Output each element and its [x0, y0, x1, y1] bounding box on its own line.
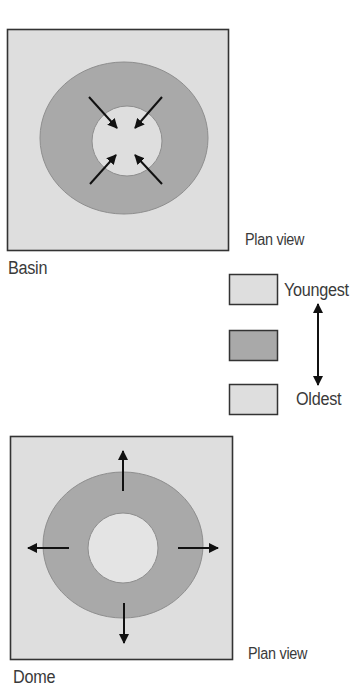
dome-core-oldest	[88, 513, 158, 583]
geologic-structure-diagram	[0, 0, 364, 692]
legend-swatch-middle	[230, 331, 278, 361]
dome-title: Dome	[13, 668, 55, 686]
legend-youngest-label: Youngest	[284, 281, 349, 299]
basin-plan-view	[8, 30, 229, 251]
basin-core-youngest	[92, 106, 162, 176]
basin-title: Basin	[8, 259, 47, 277]
dome-plan-view	[11, 437, 233, 660]
basin-plan-view-label: Plan view	[245, 232, 304, 248]
legend-swatch-oldest	[230, 385, 278, 415]
dome-plan-view-label: Plan view	[248, 646, 307, 662]
legend-oldest-label: Oldest	[296, 390, 341, 408]
legend-swatch-youngest	[230, 275, 278, 305]
